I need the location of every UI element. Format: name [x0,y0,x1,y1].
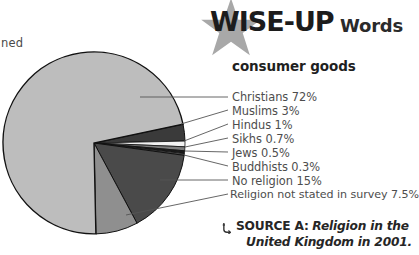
leader-sikhs [185,138,228,147]
legend-item-muslims: Muslims 3% [232,104,300,118]
source-prefix: SOURCE A: [236,219,309,233]
legend-item-no-religion: No religion 15% [232,174,322,188]
leader-jews [185,151,228,152]
leader-muslims [181,110,228,124]
legend-item-not-stated: Religion not stated in survey 7.5% [230,188,419,201]
leader-hindus [184,124,228,141]
legend-item-buddhists: Buddhists 0.3% [232,160,320,174]
source-line-1: SOURCE A: Religion in the [236,219,409,233]
source-title-line1: Religion in the [312,219,408,233]
legend-item-hindus: Hindus 1% [232,118,293,132]
legend-item-sikhs: Sikhs 0.7% [232,132,294,146]
hook-arrow-icon [220,222,231,234]
pie-slices [3,52,185,234]
leader-buddhists [184,155,228,166]
legend-item-christians: Christians 72% [232,90,317,104]
source-title-line2: United Kingdom in 2001. [246,235,412,249]
legend-item-jews: Jews 0.5% [232,146,290,160]
